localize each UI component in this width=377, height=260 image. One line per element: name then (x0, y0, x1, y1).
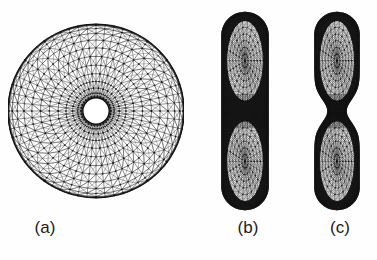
panel-label-c: (c) (318, 218, 362, 238)
torus-side-view-c-mesh (310, 10, 364, 212)
panel-label-a: (a) (20, 218, 70, 238)
panel-torus-side-view-c (310, 10, 364, 212)
panel-torus-top-view (8, 10, 184, 212)
torus-side-view-b-mesh (218, 10, 272, 212)
figure-root: (a) (b) (c) (0, 0, 377, 260)
panel-label-b: (b) (226, 218, 270, 238)
panel-torus-side-view-b (218, 10, 272, 212)
torus-top-view-mesh (8, 10, 184, 212)
